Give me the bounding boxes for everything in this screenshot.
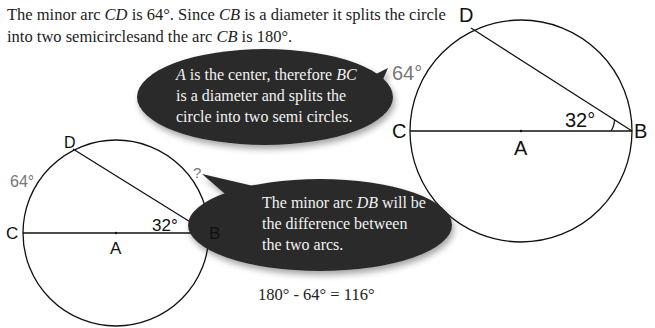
large-angle-label: 32° [565,109,595,131]
large-label-a: A [514,137,528,159]
large-label-d: D [459,4,473,26]
small-circle-diagram [23,140,209,326]
intro-line-2: into two semicirclesand the arc CB is 18… [7,26,447,48]
small-chord-db [73,149,208,233]
large-center-point [520,130,522,132]
bottom-bubble-text: The minor arc DB will be the difference … [262,192,426,255]
intro-line-1: The minor arc CD is 64°. Since CB is a d… [7,4,447,26]
large-arc-label: 64° [392,62,422,84]
large-label-c: C [392,120,406,142]
small-angle-label: 32° [152,216,178,235]
formula: 180° - 64° = 116° [258,285,374,305]
large-label-b: B [634,120,647,142]
large-chord-db [471,28,632,131]
geometry-diagrams: D C A B 32° 64° D C A B 32° 64° ? [0,0,655,328]
intro-paragraph: The minor arc CD is 64°. Since CB is a d… [7,4,447,48]
large-angle-arc [611,120,615,132]
small-label-c: C [6,224,18,243]
small-label-a: A [110,239,122,258]
small-label-b: B [209,224,220,243]
small-arc-label: 64° [10,173,34,190]
small-center-point [115,232,117,234]
small-label-d: D [64,134,76,151]
top-bubble-text: A is the center, therefore BC is a diame… [176,64,357,127]
small-unknown-arc-label: ? [193,164,201,181]
